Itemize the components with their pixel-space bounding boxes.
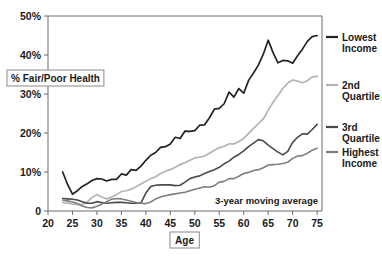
- y-tick-label: 40%: [20, 49, 42, 61]
- legend-label-line1: 3rd: [342, 122, 358, 133]
- legend-label-line1: Lowest: [342, 32, 377, 43]
- y-tick-label: 0: [35, 205, 41, 217]
- y-tick-label: 20%: [20, 127, 42, 139]
- legend-label-line2: Income: [342, 43, 377, 54]
- x-tick-label: 70: [287, 217, 299, 229]
- y-tick-label: 10%: [20, 166, 42, 178]
- legend-label-line2: Income: [342, 158, 377, 169]
- legend-label-line2: Quartile: [342, 133, 380, 144]
- x-tick-label: 65: [262, 217, 274, 229]
- y-axis-label: % Fair/Poor Health: [7, 70, 104, 86]
- x-tick-label: 25: [67, 217, 79, 229]
- x-tick-label: 20: [42, 217, 54, 229]
- x-tick-label: 35: [116, 217, 128, 229]
- x-tick-label: 50: [189, 217, 201, 229]
- x-tick-label: 45: [164, 217, 176, 229]
- x-axis-label-text: Age: [175, 235, 194, 246]
- y-axis-label-text: % Fair/Poor Health: [11, 73, 100, 84]
- chart-figure: 010%20%30%40%50% 20253035404550556065707…: [0, 0, 382, 260]
- x-tick-label: 30: [91, 217, 103, 229]
- y-tick-label: 50%: [20, 10, 42, 22]
- x-tick-label: 40: [140, 217, 152, 229]
- x-axis-label: Age: [170, 232, 199, 248]
- moving-average-annotation: 3-year moving average: [215, 195, 318, 206]
- legend-label-line2: Quartile: [342, 91, 380, 102]
- x-tick-label: 60: [238, 217, 250, 229]
- legend-label-line1: 2nd: [342, 80, 360, 91]
- y-tick-label: 30%: [20, 88, 42, 100]
- x-tick-label: 55: [213, 217, 225, 229]
- line-chart: 010%20%30%40%50% 20253035404550556065707…: [0, 0, 382, 260]
- x-tick-label: 75: [311, 217, 323, 229]
- legend-label-line1: Highest: [342, 147, 379, 158]
